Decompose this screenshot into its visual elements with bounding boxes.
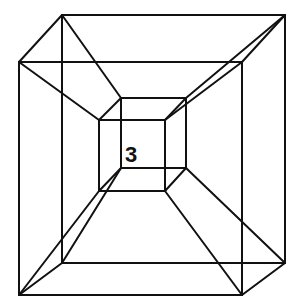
back-connector-edge	[62, 15, 121, 98]
cube-label: 3	[125, 144, 137, 166]
front-connector-edge	[19, 62, 99, 120]
outer-depth-edge	[242, 15, 285, 62]
front-connector-edge	[165, 191, 242, 295]
front-connector-edge	[165, 62, 242, 120]
tesseract-edges	[19, 15, 285, 295]
back-connector-edge	[62, 168, 121, 263]
outer-depth-edge	[242, 263, 285, 295]
outer-depth-edge	[19, 15, 62, 62]
inner-depth-edge	[165, 168, 186, 191]
back-connector-edge	[186, 168, 285, 263]
back-connector-edge	[186, 15, 285, 98]
tesseract-diagram: 3	[0, 0, 295, 308]
front-connector-edge	[19, 191, 99, 295]
tesseract-wireframe	[0, 0, 295, 308]
inner-depth-edge	[99, 98, 121, 120]
